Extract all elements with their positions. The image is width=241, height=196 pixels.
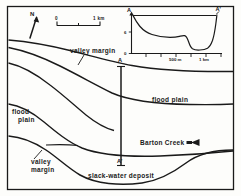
valley-margin-lower-line-2: margin <box>31 166 54 174</box>
inset-right-end-label: A' <box>216 6 221 12</box>
cross-section-inset <box>129 12 222 58</box>
inset-ytick-6: 6 <box>124 30 126 35</box>
transect-end-label: A' <box>117 158 122 164</box>
geomorphic-map-figure: N 0 1 km A A' 6 0 500 m 1 km A A' valley… <box>0 0 241 196</box>
channel-connector-line <box>46 145 78 146</box>
scale-bar-right-label: 1 km <box>93 16 105 21</box>
valley-margin-upper-leader <box>78 55 84 65</box>
slack-water-deposit-label: slack-water deposit <box>88 172 154 179</box>
barton-creek-label: Barton Creek <box>140 139 184 146</box>
inset-xtick-1km: 1 km <box>199 57 209 62</box>
inset-xtick-500m: 500 m <box>169 57 181 62</box>
valley-margin-lower-line-1: valley <box>31 158 54 166</box>
valley-margin-upper-label: valley margin <box>70 47 115 54</box>
flood-plain-left-line-1: flood <box>12 108 35 116</box>
transect-start-label: A <box>118 57 122 63</box>
flood-plain-left-line-2: plain <box>18 116 35 124</box>
scale-bar-left-label: 0 <box>55 16 58 21</box>
flow-direction-arrow-icon <box>187 139 200 146</box>
transect-line-a-aprime <box>117 66 125 166</box>
inset-profile-curve <box>133 15 217 51</box>
north-arrow-label: N <box>30 11 35 18</box>
north-arrow-icon <box>30 16 39 38</box>
flood-plain-left-label: flood plain <box>12 108 35 124</box>
inset-left-end-label: A <box>127 7 131 13</box>
scale-bar-icon <box>57 22 100 26</box>
flood-plain-right-label: flood plain <box>152 96 188 103</box>
valley-margin-lower-label: valley margin <box>31 158 54 174</box>
inset-ytick-0: 0 <box>124 51 126 56</box>
